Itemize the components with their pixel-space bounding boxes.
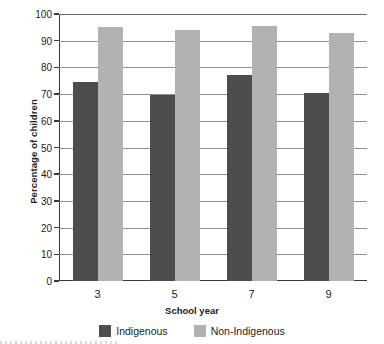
tick-mark — [54, 173, 59, 175]
bar-non-indigenous-year-7 — [252, 26, 277, 281]
y-tick-label: 70 — [12, 89, 52, 100]
bar-chart-figure: Percentage of children 01020304050607080… — [0, 0, 384, 344]
tick-mark — [54, 254, 59, 256]
x-axis-title: School year — [0, 305, 384, 316]
tick-mark — [54, 200, 59, 202]
legend-swatch — [194, 325, 206, 337]
plot-area — [59, 14, 367, 281]
bar-indigenous-year-7 — [227, 75, 252, 281]
legend-item-indigenous: Indigenous — [99, 325, 167, 337]
tick-mark — [54, 40, 59, 42]
y-tick-label: 40 — [12, 169, 52, 180]
tick-mark — [54, 67, 59, 69]
chart-legend: IndigenousNon-Indigenous — [0, 325, 384, 337]
tick-mark — [54, 147, 59, 149]
legend-item-non-indigenous: Non-Indigenous — [194, 325, 285, 337]
x-tick-label: 5 — [150, 288, 200, 300]
tick-mark — [54, 13, 59, 15]
bar-indigenous-year-5 — [150, 95, 175, 281]
y-tick-label: 10 — [12, 249, 52, 260]
tick-mark — [54, 93, 59, 95]
bar-non-indigenous-year-5 — [175, 30, 200, 281]
tick-mark — [54, 120, 59, 122]
bar-group — [227, 14, 277, 281]
x-tick-label: 9 — [304, 288, 354, 300]
bar-non-indigenous-year-9 — [329, 33, 354, 281]
y-tick-label: 20 — [12, 222, 52, 233]
tick-mark — [54, 280, 59, 282]
bar-group — [304, 14, 354, 281]
bar-non-indigenous-year-3 — [98, 27, 123, 281]
y-tick-label: 30 — [12, 195, 52, 206]
tick-mark — [54, 227, 59, 229]
y-tick-label: 0 — [12, 276, 52, 287]
x-tick-label: 7 — [227, 288, 277, 300]
bar-indigenous-year-9 — [304, 93, 329, 281]
legend-label: Non-Indigenous — [211, 325, 285, 337]
legend-swatch — [99, 325, 111, 337]
bar-indigenous-year-3 — [73, 82, 98, 281]
y-axis-tick-labels: 0102030405060708090100 — [12, 0, 52, 267]
legend-label: Indigenous — [116, 325, 167, 337]
y-tick-label: 100 — [12, 9, 52, 20]
y-tick-label: 80 — [12, 62, 52, 73]
y-tick-label: 90 — [12, 35, 52, 46]
y-tick-label: 60 — [12, 115, 52, 126]
bar-group — [150, 14, 200, 281]
bar-group — [73, 14, 123, 281]
x-tick-label: 3 — [73, 288, 123, 300]
y-tick-label: 50 — [12, 142, 52, 153]
